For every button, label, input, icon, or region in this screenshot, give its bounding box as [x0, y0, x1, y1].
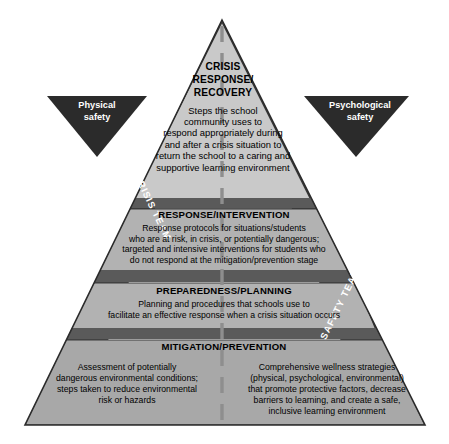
pyramid-geometry: CRISIS TEAM SAFETY TEAM: [0, 0, 449, 444]
tier-4-face: [25, 340, 425, 425]
physical-safety-flag: [47, 96, 147, 157]
psychological-safety-flag: [304, 96, 409, 157]
crisis-pyramid-diagram: CRISIS TEAM SAFETY TEAM CRISIS RESPONSE/…: [0, 0, 449, 444]
